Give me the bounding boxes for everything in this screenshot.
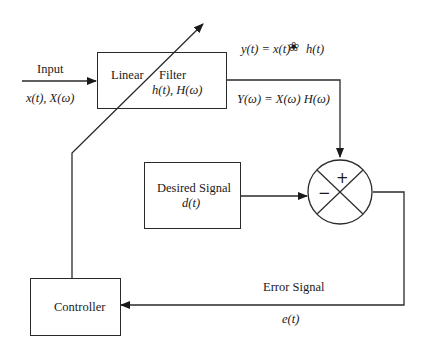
filter-label-filter: Filter [159,68,186,82]
error-signal-symbol: e(t) [282,312,299,326]
filter-label-linear: Linear [111,68,144,82]
input-label: Input [37,62,63,76]
error-signal-label: Error Signal [263,280,324,294]
convolution-icon: ❀ [288,40,299,54]
desired-signal-symbol: d(t) [182,196,200,210]
minus-sign: − [318,186,331,201]
desired-signal-label: Desired Signal [157,181,231,195]
output-time-equation-left: y(t) = x(t) [241,42,290,56]
input-signal-label: x(t), X(ω) [26,91,74,105]
plus-sign: + [336,171,349,186]
filter-response-label: h(t), H(ω) [152,83,202,97]
controller-label: Controller [54,300,105,314]
output-frequency-equation: Y(ω) = X(ω) H(ω) [237,92,330,106]
output-time-equation-right: h(t) [306,42,324,56]
